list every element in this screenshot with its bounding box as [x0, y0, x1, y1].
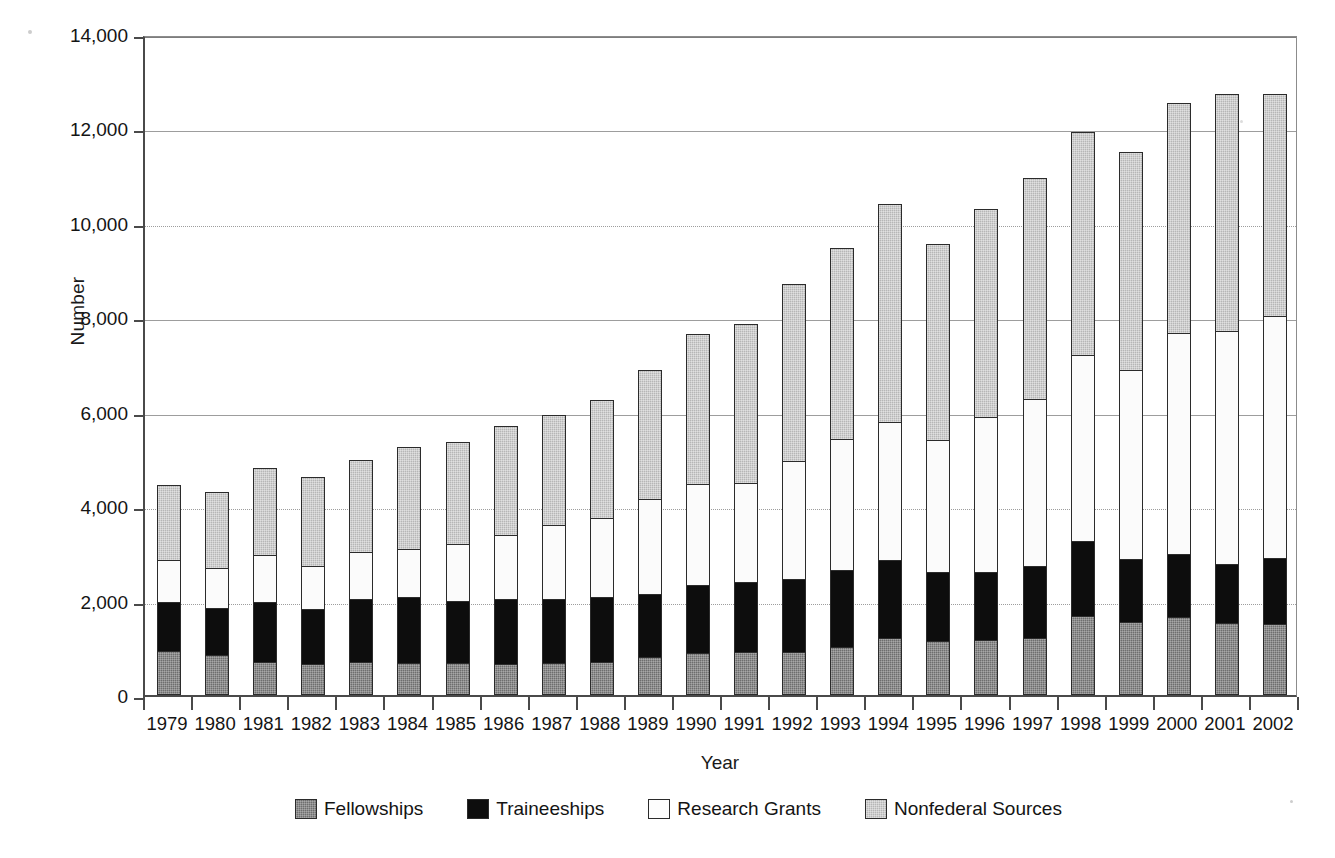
bar-segment-nonfed[interactable] [878, 204, 902, 421]
bar-segment-train[interactable] [253, 602, 277, 662]
bar-segment-nonfed[interactable] [734, 324, 758, 483]
bar-segment-nonfed[interactable] [926, 244, 950, 440]
bar-segment-nonfed[interactable] [301, 477, 325, 566]
bar-segment-grant[interactable] [301, 566, 325, 608]
bar-1984[interactable] [397, 447, 421, 695]
bar-1979[interactable] [157, 485, 181, 695]
bar-segment-grant[interactable] [349, 552, 373, 599]
bar-segment-fellow[interactable] [638, 657, 662, 695]
bar-segment-nonfed[interactable] [349, 460, 373, 553]
bar-segment-grant[interactable] [734, 483, 758, 583]
bar-segment-train[interactable] [782, 579, 806, 651]
bar-segment-fellow[interactable] [974, 640, 998, 695]
bar-segment-train[interactable] [1167, 554, 1191, 617]
bar-segment-nonfed[interactable] [686, 334, 710, 484]
bar-segment-train[interactable] [494, 599, 518, 664]
bar-segment-grant[interactable] [542, 525, 566, 599]
bar-segment-fellow[interactable] [301, 664, 325, 695]
bar-1996[interactable] [974, 209, 998, 695]
bar-segment-train[interactable] [926, 572, 950, 641]
bar-segment-fellow[interactable] [494, 664, 518, 695]
bar-segment-train[interactable] [1071, 541, 1095, 616]
bar-1980[interactable] [205, 492, 229, 695]
bar-segment-train[interactable] [157, 602, 181, 652]
bar-segment-train[interactable] [205, 608, 229, 655]
bar-segment-nonfed[interactable] [397, 447, 421, 549]
bar-segment-train[interactable] [1263, 558, 1287, 624]
bar-segment-grant[interactable] [253, 555, 277, 602]
bar-segment-fellow[interactable] [1071, 616, 1095, 695]
bar-segment-fellow[interactable] [1215, 623, 1239, 695]
bar-segment-grant[interactable] [205, 568, 229, 608]
bar-1991[interactable] [734, 324, 758, 695]
bar-1986[interactable] [494, 426, 518, 695]
bar-2002[interactable] [1263, 94, 1287, 695]
bar-segment-grant[interactable] [1071, 355, 1095, 541]
bar-1983[interactable] [349, 460, 373, 695]
bar-1995[interactable] [926, 244, 950, 695]
bar-segment-fellow[interactable] [1023, 638, 1047, 695]
bar-segment-nonfed[interactable] [494, 426, 518, 535]
bar-segment-grant[interactable] [926, 440, 950, 572]
bar-segment-nonfed[interactable] [1119, 152, 1143, 370]
bar-segment-fellow[interactable] [926, 641, 950, 695]
bar-segment-nonfed[interactable] [1263, 94, 1287, 316]
bar-segment-grant[interactable] [1215, 331, 1239, 564]
bar-segment-fellow[interactable] [446, 663, 470, 695]
legend-item-fellow[interactable]: Fellowships [295, 798, 423, 820]
bar-1999[interactable] [1119, 152, 1143, 695]
legend-item-train[interactable]: Traineeships [467, 798, 604, 820]
bar-segment-grant[interactable] [638, 499, 662, 594]
bar-1993[interactable] [830, 248, 854, 695]
bar-segment-fellow[interactable] [542, 663, 566, 695]
bar-segment-grant[interactable] [830, 439, 854, 570]
bar-segment-train[interactable] [301, 609, 325, 664]
bar-1997[interactable] [1023, 178, 1047, 695]
bar-1989[interactable] [638, 370, 662, 695]
bar-segment-fellow[interactable] [1263, 624, 1287, 695]
legend-item-nonfed[interactable]: Nonfederal Sources [865, 798, 1062, 820]
bar-1992[interactable] [782, 284, 806, 695]
bar-segment-nonfed[interactable] [1167, 103, 1191, 333]
bar-segment-fellow[interactable] [157, 651, 181, 695]
bar-segment-train[interactable] [590, 597, 614, 662]
bar-segment-fellow[interactable] [830, 647, 854, 695]
bar-segment-train[interactable] [734, 582, 758, 652]
bar-segment-fellow[interactable] [397, 663, 421, 695]
bar-segment-nonfed[interactable] [782, 284, 806, 461]
bar-segment-nonfed[interactable] [446, 442, 470, 544]
bar-segment-grant[interactable] [446, 544, 470, 601]
bar-segment-fellow[interactable] [253, 662, 277, 695]
bar-segment-fellow[interactable] [686, 653, 710, 695]
bar-1998[interactable] [1071, 132, 1095, 695]
bar-segment-grant[interactable] [590, 518, 614, 597]
bar-segment-nonfed[interactable] [205, 492, 229, 568]
bar-1987[interactable] [542, 415, 566, 695]
bar-segment-fellow[interactable] [349, 662, 373, 695]
bar-segment-train[interactable] [397, 597, 421, 663]
bar-segment-train[interactable] [1215, 564, 1239, 623]
bar-segment-grant[interactable] [686, 484, 710, 586]
bar-segment-train[interactable] [686, 585, 710, 653]
bar-segment-train[interactable] [974, 572, 998, 640]
bar-1985[interactable] [446, 442, 470, 695]
bar-segment-train[interactable] [446, 601, 470, 663]
bar-segment-train[interactable] [349, 599, 373, 662]
bar-segment-nonfed[interactable] [1023, 178, 1047, 399]
bar-1994[interactable] [878, 204, 902, 695]
bar-segment-grant[interactable] [494, 535, 518, 600]
legend-item-grant[interactable]: Research Grants [648, 798, 821, 820]
bar-2000[interactable] [1167, 103, 1191, 695]
bar-segment-fellow[interactable] [734, 652, 758, 695]
bar-segment-nonfed[interactable] [1215, 94, 1239, 331]
bar-segment-train[interactable] [638, 594, 662, 657]
bar-segment-train[interactable] [830, 570, 854, 647]
bar-segment-fellow[interactable] [1119, 622, 1143, 695]
bar-1988[interactable] [590, 400, 614, 695]
bar-segment-grant[interactable] [1263, 316, 1287, 558]
bar-1982[interactable] [301, 477, 325, 695]
bar-1990[interactable] [686, 334, 710, 695]
bar-segment-grant[interactable] [157, 560, 181, 602]
bar-2001[interactable] [1215, 94, 1239, 696]
bar-segment-grant[interactable] [878, 422, 902, 560]
